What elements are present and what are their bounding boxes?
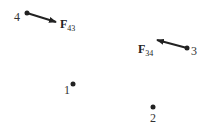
point-3-label: 3 — [191, 45, 197, 57]
force-label-f34: F34 — [138, 43, 153, 55]
force-subscript: 43 — [67, 24, 75, 33]
point-2-label: 2 — [150, 112, 156, 124]
force-subscript: 34 — [145, 49, 153, 58]
point-1-dot — [71, 82, 76, 87]
force-label-f43: F43 — [60, 18, 75, 30]
force-diagram — [0, 0, 221, 131]
force-arrow-f43 — [27, 13, 56, 22]
point-3-dot — [185, 46, 190, 51]
point-4-label: 4 — [14, 11, 20, 23]
force-arrow-f34 — [157, 40, 187, 48]
point-2-dot — [151, 105, 156, 110]
point-4-dot — [25, 11, 30, 16]
point-1-label: 1 — [64, 84, 70, 96]
